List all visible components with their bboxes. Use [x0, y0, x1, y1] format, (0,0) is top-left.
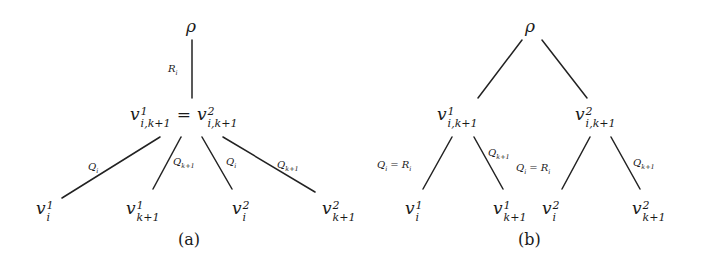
leaf-b-2: v1k+1 [493, 198, 527, 221]
edge-label-a-root: Ri [168, 64, 178, 74]
edge-label-b-3: Qi=Ri [516, 163, 550, 173]
leaf-b-1: v1i [405, 198, 423, 221]
edge-b-root-right [542, 40, 587, 98]
edge-label-b-4: Qk+1 [633, 158, 655, 168]
caption-b: (b) [518, 232, 541, 248]
internal-node-b-2: v2i,k+1 [575, 104, 616, 127]
edge-b-root-left [478, 40, 522, 98]
leaf-b-4: v2k+1 [632, 198, 666, 221]
edge-b-2 [474, 137, 503, 189]
root-node-a: ρ [186, 18, 196, 35]
tree-edges [0, 0, 701, 270]
edge-label-a-3: Qi [226, 157, 236, 167]
edge-label-a-4: Qk+1 [277, 160, 299, 170]
leaf-b-3: v2i [542, 198, 560, 221]
caption-a: (a) [178, 232, 200, 248]
edge-label-a-2: Qk+1 [173, 157, 195, 167]
edge-a-4 [223, 137, 315, 192]
leaf-a-4: v2k+1 [322, 198, 356, 221]
edge-b-3 [562, 137, 590, 189]
edge-b-1 [423, 137, 452, 189]
leaf-a-1: v1i [36, 198, 54, 221]
leaf-a-3: v2i [232, 198, 250, 221]
edge-label-b-2: Qk+1 [488, 148, 510, 158]
leaf-a-2: v1k+1 [126, 198, 160, 221]
edge-a-1 [62, 137, 160, 198]
edge-label-a-1: Qi [88, 162, 98, 172]
edge-label-b-1: Qi=Ri [377, 160, 411, 170]
root-node-b: ρ [525, 18, 535, 35]
internal-node-b-1: v1i,k+1 [437, 104, 478, 127]
middle-node-a: v1i,k+1=v2i,k+1 [130, 104, 238, 127]
